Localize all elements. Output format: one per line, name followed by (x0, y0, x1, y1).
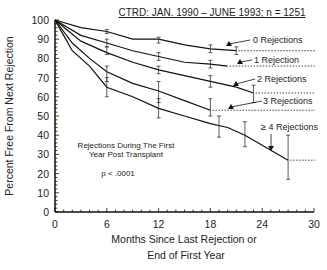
y-tick-label: 0 (43, 206, 49, 218)
x-tick-label: 6 (104, 218, 110, 230)
y-tick-label: 40 (37, 129, 49, 141)
x-tick-label: 24 (256, 218, 268, 230)
p-value: p < .0001 (101, 169, 135, 178)
survival-curve (55, 20, 254, 93)
series-label: 3 Rejections (263, 96, 313, 106)
y-tick-label: 80 (37, 52, 49, 64)
y-tick-label: 30 (37, 148, 49, 160)
series-label: 0 Rejections (253, 35, 303, 45)
x-axis-label-line2: End of First Year (147, 249, 225, 261)
x-tick-label: 0 (52, 218, 58, 230)
y-tick-label: 60 (37, 91, 49, 103)
y-tick-label: 70 (37, 72, 49, 84)
x-tick-label: 12 (153, 218, 165, 230)
y-tick-label: 20 (37, 168, 49, 180)
x-axis-label-line1: Months Since Last Rejection or (111, 233, 257, 245)
series-label: ≥ 4 Rejections (261, 122, 318, 132)
series-label: 2 Rejections (257, 74, 307, 84)
series-label: 1 Rejection (254, 55, 299, 65)
y-tick-label: 50 (37, 110, 49, 122)
y-axis-label: Percent Free From Next Rejection (3, 36, 15, 195)
x-tick-label: 18 (205, 218, 217, 230)
legend-title-line1: Rejections During The First (78, 141, 176, 150)
legend-title-line2: Year Post Transplant (89, 150, 164, 159)
chart-title: CTRD: JAN. 1990 – JUNE 1993; n = 1251 (118, 7, 305, 18)
y-tick-label: 10 (37, 187, 49, 199)
y-tick-label: 90 (37, 33, 49, 45)
x-tick-label: 30 (308, 218, 320, 230)
survival-chart: CTRD: JAN. 1990 – JUNE 1993; n = 1251 01… (0, 0, 327, 270)
y-tick-label: 100 (31, 14, 49, 26)
